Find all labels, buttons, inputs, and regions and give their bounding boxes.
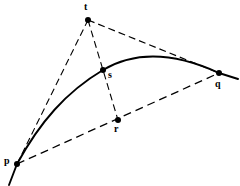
- point-label-t: t: [84, 2, 87, 12]
- point-label-q: q: [215, 79, 221, 89]
- solid-curve-group: [9, 57, 238, 185]
- point-dot-q: [216, 70, 222, 76]
- geometry-diagram: p q r s t: [0, 0, 240, 186]
- line-tangent-p-t: [17, 20, 88, 164]
- point-label-p: p: [4, 156, 10, 166]
- point-dot-p: [14, 161, 20, 167]
- point-label-s: s: [108, 70, 112, 80]
- diagram-canvas: [0, 0, 240, 186]
- point-dots-group: [14, 17, 222, 167]
- dashed-lines-group: [17, 20, 219, 164]
- point-dot-s: [100, 67, 106, 73]
- parabolic-arc-curve: [9, 57, 238, 185]
- point-label-r: r: [114, 124, 118, 134]
- point-dot-t: [85, 17, 91, 23]
